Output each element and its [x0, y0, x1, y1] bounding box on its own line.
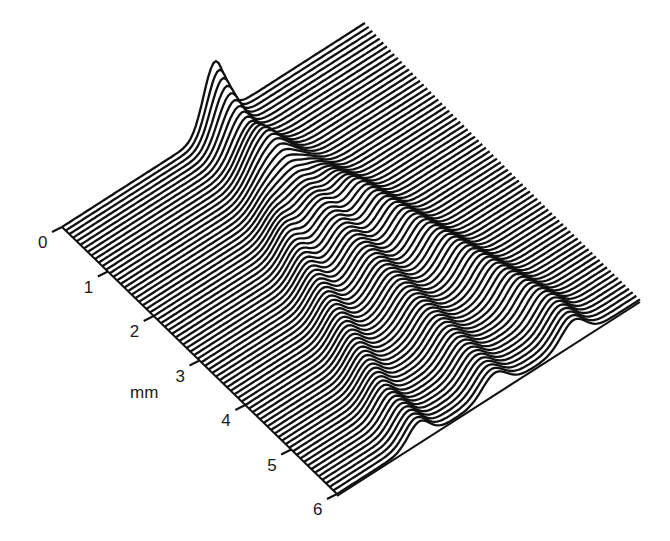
waterfall-svg: 0123456 mm [0, 0, 670, 541]
axis-tick [52, 227, 62, 232]
axis-tick [281, 450, 291, 455]
axis-tick-label: 1 [84, 278, 93, 297]
axis-tick-label: 0 [38, 233, 47, 252]
axis-tick [144, 316, 154, 321]
axis-tick [190, 361, 200, 366]
trace-group [62, 23, 640, 497]
axis-tick-label: 4 [221, 411, 230, 430]
axis-tick-label: 2 [130, 322, 139, 341]
axis-tick-label: 3 [176, 367, 185, 386]
axis-tick [98, 272, 108, 277]
axis-tick [235, 405, 245, 410]
waterfall-plot: 0123456 mm [0, 0, 670, 541]
axis-tick [327, 494, 337, 499]
axis-tick-label: 6 [313, 500, 322, 519]
axis-label-mm: mm [130, 383, 158, 402]
axis-tick-label: 5 [267, 456, 276, 475]
